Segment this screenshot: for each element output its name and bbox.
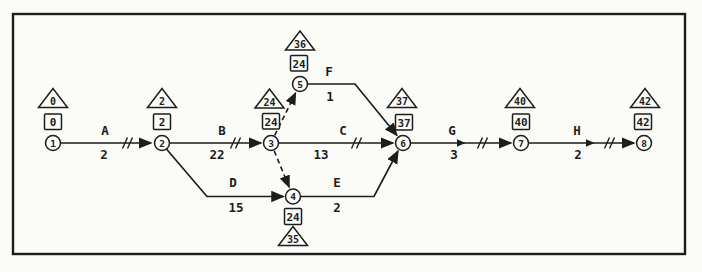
network-node-8: 42 42 8 — [631, 89, 660, 151]
activity-E-arrow — [293, 151, 398, 197]
node-2-number: 2 — [159, 138, 165, 149]
node-4-early-time: 24 — [286, 211, 300, 224]
activity-C-label: C — [339, 123, 347, 138]
activity-B-duration: 22 — [209, 147, 224, 162]
node-4-number: 4 — [290, 191, 296, 202]
activity-G-arrow — [411, 138, 512, 149]
node-5-late-time: 36 — [294, 39, 306, 50]
activity-F-arrow — [300, 84, 397, 136]
node-8-early-time: 42 — [636, 116, 649, 129]
activity-A-label: A — [101, 123, 109, 138]
activity-B-label: B — [218, 123, 226, 138]
node-6-number: 6 — [400, 138, 406, 149]
network-diagram-figure: A 2 B 22 C 13 D 15 E 2 F 1 G 3 H 2 0 0 1… — [0, 0, 702, 272]
network-node-7: 40 40 7 — [506, 89, 535, 151]
activity-C-duration: 13 — [313, 147, 328, 162]
activity-G-label: G — [448, 123, 456, 138]
activity-H-label: H — [573, 123, 581, 138]
activity-F-line — [300, 84, 397, 136]
node-6-late-time: 37 — [396, 96, 408, 107]
node-2-early-time: 2 — [159, 116, 166, 129]
activity-E-line — [293, 151, 398, 197]
node-8-number: 8 — [641, 138, 647, 149]
node-7-early-time: 40 — [514, 116, 527, 129]
mid-arrowhead-G — [457, 139, 466, 146]
activity-H-duration: 2 — [574, 147, 582, 162]
diagram-border — [13, 14, 685, 254]
network-node-4: 4 24 35 — [279, 189, 308, 246]
activity-D-duration: 15 — [228, 200, 243, 215]
activity-F-label: F — [325, 64, 333, 79]
node-2-late-time: 2 — [159, 96, 165, 107]
node-8-late-time: 42 — [639, 96, 651, 107]
activity-F-duration: 1 — [326, 89, 334, 104]
node-5-number: 5 — [297, 79, 303, 90]
activity-D-line — [166, 149, 284, 197]
node-7-late-time: 40 — [514, 96, 526, 107]
network-node-5: 36 24 5 — [286, 31, 315, 92]
node-7-number: 7 — [518, 138, 524, 149]
node-1-number: 1 — [50, 138, 56, 149]
network-node-2: 2 2 2 — [148, 89, 177, 151]
dummy-arrow-3-to-4 — [274, 151, 289, 187]
node-4-late-time: 35 — [287, 234, 299, 245]
network-node-1: 0 0 1 — [39, 89, 68, 151]
node-1-late-time: 0 — [50, 96, 56, 107]
node-3-number: 3 — [268, 138, 274, 149]
activity-G-duration: 3 — [450, 147, 458, 162]
mid-arrowhead-H — [586, 139, 595, 146]
activity-D-label: D — [229, 175, 237, 190]
activity-E-label: E — [333, 175, 341, 190]
network-node-6: 37 37 6 — [388, 89, 417, 151]
node-1-early-time: 0 — [50, 116, 57, 129]
node-6-early-time: 37 — [397, 117, 410, 130]
node-3-early-time: 24 — [264, 116, 278, 129]
activity-D-arrow — [166, 149, 284, 197]
network-diagram-canvas: A 2 B 22 C 13 D 15 E 2 F 1 G 3 H 2 0 0 1… — [0, 0, 702, 272]
node-3-late-time: 24 — [263, 97, 275, 108]
activity-C-arrow — [279, 138, 394, 149]
node-5-early-time: 24 — [292, 58, 306, 71]
network-node-3: 24 24 3 — [255, 89, 284, 151]
activity-A-duration: 2 — [100, 147, 108, 162]
activity-E-duration: 2 — [333, 200, 341, 215]
